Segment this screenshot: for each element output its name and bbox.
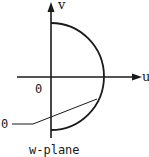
- u-axis-label: u: [142, 69, 149, 84]
- origin-label: 0: [35, 82, 42, 96]
- leader-line: [12, 99, 97, 124]
- w-plane-diagram: v u 0 0 w-plane: [0, 0, 149, 157]
- u-axis-arrowhead-icon: [132, 74, 142, 81]
- leader-label: 0: [1, 117, 8, 131]
- v-axis-label: v: [57, 0, 66, 12]
- v-axis-arrowhead-icon: [48, 2, 55, 12]
- plane-title: w-plane: [29, 143, 80, 157]
